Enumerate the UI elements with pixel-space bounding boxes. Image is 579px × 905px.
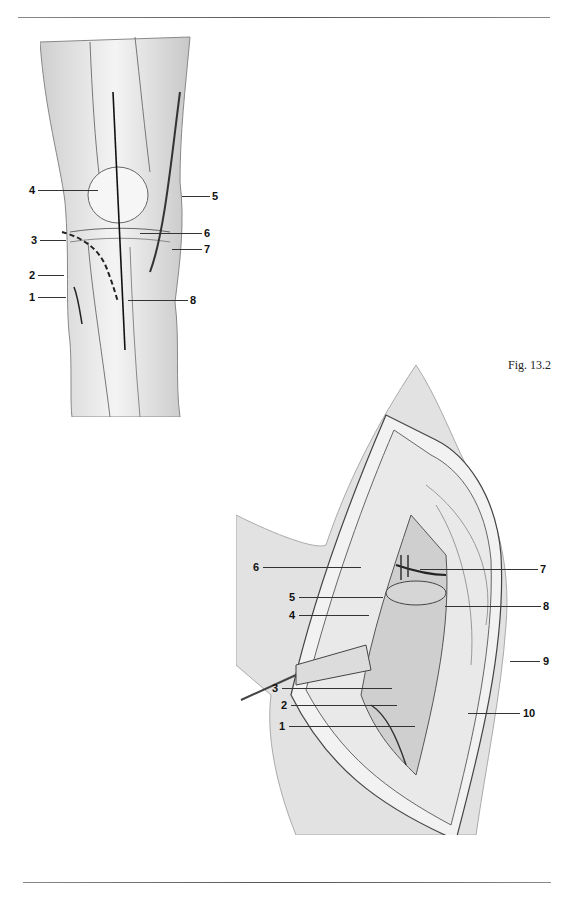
bottom-leader-4 [299,615,369,616]
top-leader-2 [38,275,64,276]
top-label-7: 7 [204,243,210,255]
top-rule [18,17,550,18]
bottom-label-6: 6 [253,561,259,573]
bottom-label-4: 4 [289,609,295,621]
bottom-leader-5 [299,597,383,598]
knee-anterior-illustration [40,32,200,417]
top-leader-4 [38,190,98,191]
bottom-leader-8 [445,606,541,607]
top-label-1: 1 [29,291,35,303]
top-label-4: 4 [29,184,35,196]
bottom-leader-10 [468,713,520,714]
bottom-leader-7 [420,569,538,570]
top-leader-5 [182,196,210,197]
bottom-label-5: 5 [289,591,295,603]
bottom-label-1: 1 [279,720,285,732]
bottom-label-2: 2 [281,699,287,711]
top-label-3: 3 [31,234,37,246]
bottom-leader-3 [282,688,392,689]
bottom-label-3: 3 [272,682,278,694]
bottom-leader-2 [291,705,397,706]
figure-knee-anterior [40,32,200,417]
top-label-8: 8 [190,294,196,306]
top-leader-8 [128,300,188,301]
bottom-label-8: 8 [543,600,549,612]
bottom-label-9: 9 [543,655,549,667]
top-leader-7 [172,249,202,250]
bottom-label-7: 7 [540,563,546,575]
top-leader-3 [40,240,66,241]
bottom-leader-6 [263,567,361,568]
top-label-5: 5 [212,190,218,202]
bottom-label-10: 10 [523,707,535,719]
top-label-2: 2 [29,269,35,281]
bottom-leader-1 [289,726,415,727]
top-leader-1 [38,297,66,298]
top-leader-6 [140,233,202,234]
bottom-leader-9 [510,661,540,662]
knee-exposure-illustration [236,365,566,835]
top-label-6: 6 [204,227,210,239]
bottom-rule [23,882,551,883]
figure-knee-exposure [236,365,566,835]
